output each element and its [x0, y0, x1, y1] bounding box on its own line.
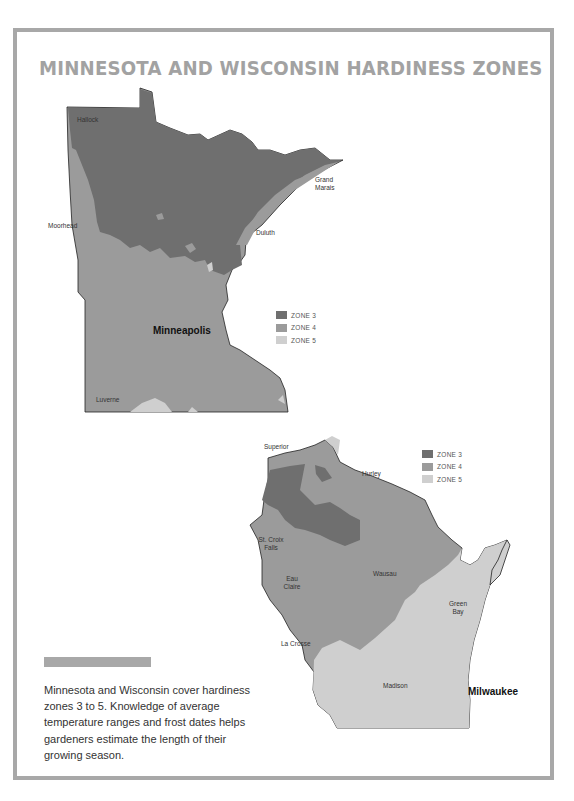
caption-text: Minnesota and Wisconsin cover hardiness …	[44, 682, 264, 763]
city-green-bay: Green Bay	[446, 600, 470, 616]
zone5-swatch	[422, 475, 433, 483]
city-hallock: Hallock	[77, 116, 98, 124]
city-superior: Superior	[264, 443, 289, 451]
city-minneapolis: Minneapolis	[153, 327, 211, 335]
city-eau-claire: Eau Claire	[281, 575, 303, 591]
zone3-swatch	[276, 311, 287, 319]
city-moorhead: Moorhead	[48, 222, 77, 230]
city-milwaukee: Milwaukee	[468, 688, 518, 696]
minnesota-map	[67, 88, 343, 412]
legend-label: ZONE 3	[437, 451, 462, 458]
zone5-swatch	[276, 336, 287, 344]
city-grand-marais: Grand Marais	[315, 176, 345, 192]
city-luverne: Luverne	[96, 396, 120, 404]
city-st-croix-falls: St. Croix Falls	[256, 536, 286, 552]
legend-zone5: ZONE 5	[276, 334, 316, 347]
legend-label: ZONE 4	[291, 324, 316, 331]
legend-zone4: ZONE 4	[422, 461, 462, 474]
city-wausau: Wausau	[373, 570, 397, 578]
caption-accent-bar	[44, 657, 151, 667]
city-madison: Madison	[383, 682, 408, 690]
legend-zone3: ZONE 3	[276, 309, 316, 322]
wisconsin-legend: ZONE 3 ZONE 4 ZONE 5	[422, 448, 462, 486]
legend-label: ZONE 4	[437, 463, 462, 470]
legend-zone4: ZONE 4	[276, 322, 316, 335]
city-hurley: Hurley	[362, 470, 381, 478]
city-duluth: Duluth	[256, 229, 275, 237]
legend-label: ZONE 5	[437, 476, 462, 483]
zone3-swatch	[422, 450, 433, 458]
city-la-crosse: La Crosse	[281, 640, 311, 648]
legend-label: ZONE 5	[291, 337, 316, 344]
minnesota-legend: ZONE 3 ZONE 4 ZONE 5	[276, 309, 316, 347]
legend-label: ZONE 3	[291, 312, 316, 319]
zone4-swatch	[422, 463, 433, 471]
zone4-swatch	[276, 324, 287, 332]
legend-zone3: ZONE 3	[422, 448, 462, 461]
legend-zone5: ZONE 5	[422, 473, 462, 486]
